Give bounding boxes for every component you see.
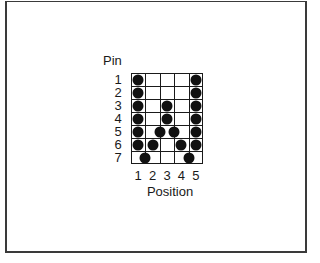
grid-column-line	[174, 74, 175, 163]
matrix-dot	[147, 139, 158, 150]
matrix-dot	[133, 100, 144, 111]
matrix-dot	[190, 113, 201, 124]
pin-axis-title: Pin	[103, 53, 122, 68]
grid-row-line	[132, 86, 202, 87]
position-axis-title: Position	[131, 184, 209, 199]
position-label: 4	[174, 168, 188, 183]
matrix-dot	[169, 126, 180, 137]
grid-row-line	[132, 125, 202, 126]
matrix-dot	[133, 126, 144, 137]
position-label: 3	[160, 168, 174, 183]
matrix-dot	[162, 113, 173, 124]
matrix-dot	[162, 100, 173, 111]
matrix-dot	[133, 87, 144, 98]
matrix-dot	[140, 152, 151, 163]
matrix-dot	[190, 87, 201, 98]
pin-label: 7	[112, 151, 124, 164]
matrix-dot	[133, 139, 144, 150]
grid-row-line	[132, 138, 202, 139]
matrix-dot	[190, 139, 201, 150]
matrix-dot	[190, 74, 201, 85]
grid-column-line	[145, 74, 146, 163]
matrix-dot	[190, 126, 201, 137]
matrix-dot	[154, 126, 165, 137]
position-label: 5	[189, 168, 203, 183]
matrix-dot	[190, 100, 201, 111]
matrix-dot	[133, 74, 144, 85]
dot-matrix-grid	[131, 73, 203, 164]
matrix-dot	[176, 139, 187, 150]
position-label: 1	[131, 168, 145, 183]
matrix-dot	[133, 113, 144, 124]
position-label: 2	[146, 168, 160, 183]
matrix-dot	[183, 152, 194, 163]
